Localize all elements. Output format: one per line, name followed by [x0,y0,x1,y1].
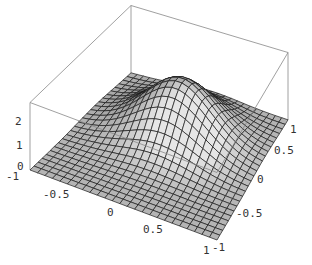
y-tick-0: 0 [257,174,264,185]
y-tick-0.5: 0.5 [274,145,294,156]
x-tick-0.5: 0.5 [143,224,163,235]
y-tick-minus-0.5: -0.5 [236,208,263,219]
z-tick-2: 2 [15,116,22,127]
x-tick-minus-1: -1 [6,171,19,182]
z-tick-1: 1 [16,140,23,151]
y-tick-minus-1: -1 [212,242,225,253]
y-tick-1: 1 [290,124,297,135]
x-tick-0: 0 [107,207,114,218]
x-tick-1: 1 [203,245,210,256]
x-tick-minus-0.5: -0.5 [43,189,70,200]
